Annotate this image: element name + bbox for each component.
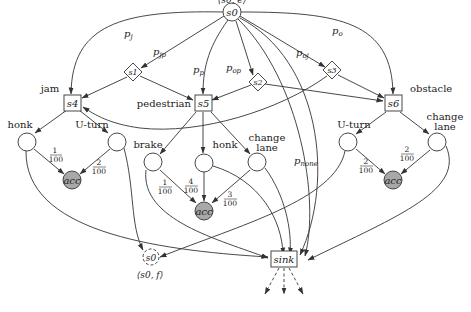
edge-s2-s5 <box>212 85 251 100</box>
svg-text:s6: s6 <box>388 98 400 109</box>
s6-annotation: obstacle <box>410 83 452 94</box>
node-sink: sink <box>271 251 297 267</box>
node-s5: s5 pedestrian <box>137 95 212 111</box>
action-obs-change-lane: change lane <box>427 111 464 151</box>
svg-text:pj: pj <box>124 28 133 41</box>
edge-s1-s4 <box>82 77 127 98</box>
svg-text:s0: s0 <box>146 253 157 263</box>
svg-text:s2: s2 <box>253 78 262 87</box>
svg-text:s5: s5 <box>198 98 210 109</box>
action-jam-honk: honk <box>8 119 36 151</box>
svg-text:100: 100 <box>400 154 415 163</box>
edge-s5-brake <box>160 112 196 154</box>
acc-obstacle: acc <box>384 171 402 189</box>
edge-s0-s3 <box>240 16 325 67</box>
node-s0-final: s0 ⟨s0, f⟩ <box>137 249 163 280</box>
node-s1: s1 <box>124 63 142 81</box>
svg-text:sink: sink <box>274 254 295 265</box>
svg-text:pnone: pnone <box>294 155 318 168</box>
svg-text:acc: acc <box>384 175 402 186</box>
mdp-diagram: s0 ⟨s0, e⟩ s1 s2 s3 s4 jam s5 pedestrian… <box>0 0 471 312</box>
svg-text:3: 3 <box>228 190 233 199</box>
action-obs-uturn: U-turn <box>337 119 371 151</box>
label-pp: pp <box>193 64 204 77</box>
s0-final-annotation: ⟨s0, f⟩ <box>137 270 163 280</box>
svg-text:honk: honk <box>8 119 34 130</box>
svg-text:poj: poj <box>296 47 310 60</box>
edge-sink-out-1 <box>265 268 279 294</box>
svg-text:100: 100 <box>223 199 238 208</box>
action-ped-brake: brake <box>133 139 162 171</box>
prob-jam-honk: 1 100 <box>49 146 64 164</box>
label-po: po <box>332 25 343 38</box>
svg-text:lane: lane <box>434 121 456 132</box>
prob-ped-change-lane: 3 100 <box>223 190 238 208</box>
svg-text:1: 1 <box>53 146 58 155</box>
svg-text:s3: s3 <box>327 66 336 75</box>
svg-text:100: 100 <box>184 186 199 195</box>
node-s4: s4 jam <box>40 83 81 111</box>
svg-text:acc: acc <box>63 175 81 186</box>
svg-text:1: 1 <box>163 178 168 187</box>
s0-annotation: ⟨s0, e⟩ <box>218 0 246 5</box>
svg-text:U-turn: U-turn <box>75 119 109 130</box>
s5-annotation: pedestrian <box>137 98 192 109</box>
prob-obs-change-lane: 2 100 <box>400 145 415 163</box>
label-poj: poj <box>296 47 310 60</box>
svg-text:4: 4 <box>189 177 194 186</box>
svg-text:100: 100 <box>49 155 64 164</box>
svg-text:100: 100 <box>158 187 173 196</box>
svg-text:s1: s1 <box>128 68 137 77</box>
prob-ped-honk: 4 100 <box>184 177 199 195</box>
edge-s1-s5 <box>140 76 193 100</box>
svg-text:2: 2 <box>364 157 369 166</box>
svg-text:po: po <box>332 25 343 38</box>
edge-s0-s4 <box>71 12 223 94</box>
svg-text:pp: pp <box>193 64 204 77</box>
svg-text:s0: s0 <box>226 7 238 18</box>
node-s0: s0 ⟨s0, e⟩ <box>218 0 246 21</box>
svg-text:brake: brake <box>133 139 162 150</box>
node-s6: s6 obstacle <box>385 83 452 111</box>
svg-text:100: 100 <box>92 167 107 176</box>
node-s2: s2 <box>249 73 267 91</box>
edge-sink-out-3 <box>289 268 303 294</box>
svg-text:acc: acc <box>195 206 213 217</box>
edge-s6-change <box>400 112 429 134</box>
edge-s3-s6 <box>338 75 384 98</box>
edge-uturn-s0f <box>124 148 143 250</box>
edge-s0-s5 <box>203 20 228 94</box>
label-pnone: pnone <box>294 155 318 168</box>
svg-text:lane: lane <box>256 142 278 153</box>
svg-text:2: 2 <box>405 145 410 154</box>
label-pop: pop <box>226 62 242 75</box>
acc-pedestrian: acc <box>195 202 213 220</box>
edge-s4-honk <box>35 110 67 133</box>
svg-text:100: 100 <box>359 166 374 175</box>
label-pjp: pjp <box>153 46 167 59</box>
svg-text:pjp: pjp <box>153 46 167 59</box>
edge-s0-s1 <box>141 16 224 68</box>
prob-jam-uturn: 2 100 <box>92 158 107 176</box>
svg-text:pop: pop <box>226 62 242 75</box>
action-ped-change-lane: change lane <box>248 132 285 171</box>
edge-s2-s6 <box>265 84 383 101</box>
node-s3: s3 <box>323 61 341 79</box>
svg-text:s4: s4 <box>67 98 79 109</box>
svg-text:2: 2 <box>97 158 102 167</box>
label-pj: pj <box>124 28 133 41</box>
s4-annotation: jam <box>40 83 60 94</box>
svg-text:U-turn: U-turn <box>337 119 371 130</box>
prob-obs-uturn: 2 100 <box>359 157 374 175</box>
edge-change-sink-right <box>308 146 449 260</box>
prob-ped-brake: 1 100 <box>158 178 173 196</box>
svg-text:honk: honk <box>213 139 239 150</box>
acc-jam: acc <box>63 171 81 189</box>
